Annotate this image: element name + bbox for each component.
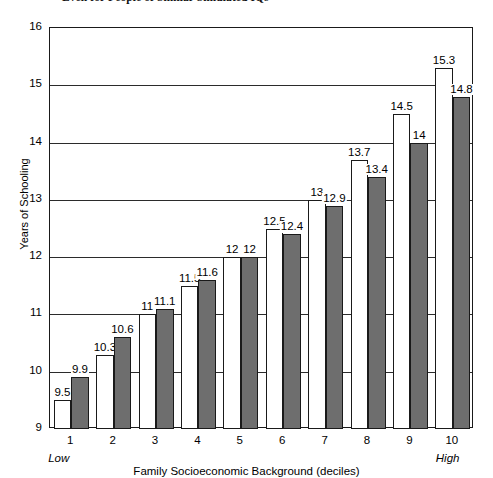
y-tick-label: 10 [0, 365, 42, 377]
bar-value-label: 14 [412, 130, 427, 142]
bar-value-label: 10.6 [110, 324, 134, 336]
x-axis-low-label: Low [48, 452, 69, 464]
bar-value-label: 14.5 [389, 101, 413, 113]
plot-area: 9.59.910.310.61111.111.511.6121212.512.4… [49, 27, 473, 428]
bar-light-3 [139, 314, 157, 429]
bar-light-6 [266, 229, 284, 430]
x-axis-title: Family Socioeconomic Background (deciles… [0, 465, 493, 477]
bar-dark-2 [114, 337, 132, 429]
bar-value-label: 11.1 [153, 296, 177, 308]
bar-value-label: 13.7 [347, 147, 371, 159]
bar-light-1 [54, 400, 72, 429]
bar-dark-8 [368, 177, 386, 429]
y-tick-label: 12 [0, 250, 42, 262]
bar-value-label: 11.6 [195, 267, 219, 279]
bar-dark-3 [156, 309, 174, 429]
bar-light-9 [393, 114, 411, 429]
bar-dark-1 [71, 377, 89, 429]
bar-light-2 [96, 355, 114, 429]
y-tick-label: 11 [0, 308, 42, 320]
bar-series-group: 9.59.910.310.61111.111.511.6121212.512.4… [50, 28, 472, 427]
bar-light-5 [223, 257, 241, 429]
chart-title: Even for People of Similar Simulated IQs [62, 0, 422, 3]
y-tick-label: 9 [0, 422, 42, 434]
bar-light-7 [308, 200, 326, 429]
y-tick-label: 16 [0, 21, 42, 33]
bar-value-label: 12.9 [322, 193, 346, 205]
bar-light-8 [351, 160, 369, 429]
bar-dark-7 [326, 206, 344, 429]
bar-value-label: 15.3 [432, 55, 456, 67]
bar-light-4 [181, 286, 199, 429]
bar-value-label: 9.9 [71, 364, 89, 376]
bar-dark-6 [283, 234, 301, 429]
y-tick-label: 15 [0, 79, 42, 91]
x-tick-label: 10 [422, 434, 482, 446]
bar-value-label: 12 [242, 244, 257, 256]
x-axis-high-label: High [436, 452, 460, 464]
bar-dark-4 [198, 280, 216, 429]
bar-value-label: 14.8 [449, 84, 473, 96]
bar-value-label: 13.4 [365, 164, 389, 176]
bar-value-label: 12.4 [280, 221, 304, 233]
bar-value-label: 9.5 [53, 387, 71, 399]
bar-light-10 [435, 68, 453, 429]
bar-dark-9 [410, 143, 428, 429]
y-tick-label: 14 [0, 136, 42, 148]
chart-root: Even for People of Similar Simulated IQs… [0, 0, 493, 478]
y-tick-label: 13 [0, 193, 42, 205]
bar-dark-10 [453, 97, 471, 429]
bar-dark-5 [241, 257, 259, 429]
bar-value-label: 12 [225, 244, 240, 256]
